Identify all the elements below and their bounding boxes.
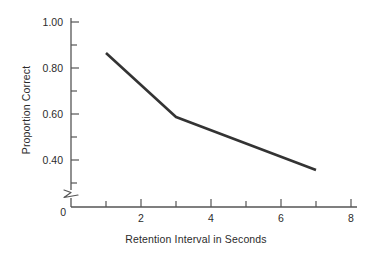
y-axis-break-symbol (64, 190, 78, 198)
y-axis-title: Proportion Correct (20, 66, 32, 154)
x-tick-label-4: 4 (208, 212, 214, 224)
y-tick-label-1.00: 1.00 (43, 16, 64, 28)
x-tick-label-6: 6 (278, 212, 284, 224)
line-chart-svg: 1.00 0.80 0.60 0.40 0 2 4 6 8 Retention … (0, 0, 378, 256)
x-tick-label-2: 2 (138, 212, 144, 224)
data-series-line (106, 53, 316, 170)
origin-label-0: 0 (60, 206, 66, 218)
y-tick-label-0.80: 0.80 (43, 62, 64, 74)
y-tick-label-0.60: 0.60 (43, 108, 64, 120)
x-tick-label-8: 8 (348, 212, 354, 224)
x-axis-title: Retention Interval in Seconds (125, 233, 267, 245)
y-tick-label-0.40: 0.40 (43, 154, 64, 166)
chart-figure: 1.00 0.80 0.60 0.40 0 2 4 6 8 Retention … (0, 0, 378, 256)
